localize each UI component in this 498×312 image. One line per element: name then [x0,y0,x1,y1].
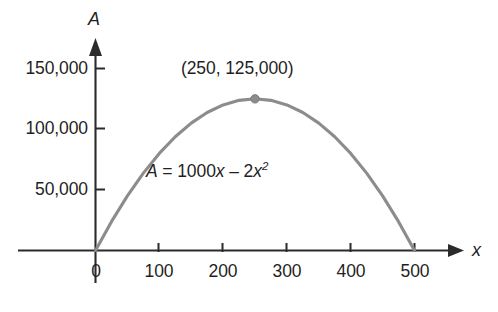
equation-exponent-2: 2 [262,160,268,172]
x-tick-label-300: 300 [257,263,317,281]
equation-label: A = 1000x – 2x2 [146,163,268,181]
x-tick-label-0: 0 [76,263,116,281]
x-tick-label-500: 500 [385,263,445,281]
y-tick-label-50000: 50,000 [0,181,88,199]
y-axis-arrowhead [89,38,102,56]
x-tick-label-200: 200 [193,263,253,281]
equation-coefficient-2: 2 [244,161,254,181]
chart-figure: 150,000 100,000 50,000 0 100 200 300 400… [0,0,498,312]
y-axis-label: A [88,10,100,28]
equation-var-a: A [146,161,158,181]
equation-coefficient-1: 1000 [177,161,216,181]
equation-equals: = [162,161,172,181]
x-tick-label-400: 400 [321,263,381,281]
x-axis-label: x [472,241,481,259]
x-tick-label-100: 100 [129,263,189,281]
vertex-coordinate-label: (250, 125,000) [181,60,293,78]
y-tick-label-150000: 150,000 [0,60,88,78]
x-axis-arrowhead [448,244,464,257]
y-tick-label-100000: 100,000 [0,120,88,138]
equation-minus: – [229,161,239,181]
vertex-point-marker [251,95,259,103]
equation-var-x2: x [253,161,262,181]
